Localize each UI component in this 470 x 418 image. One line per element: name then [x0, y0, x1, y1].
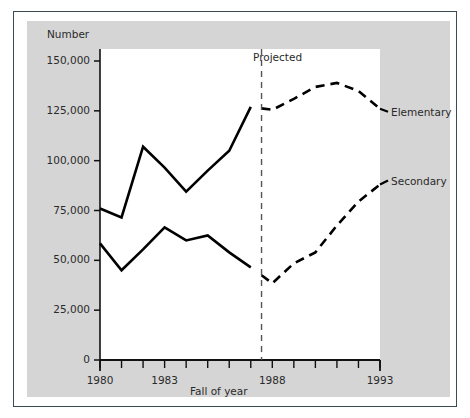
y-tick-label-3: 75,000 — [28, 204, 90, 216]
chart-figure: Number Projected Fall of year 025,00050,… — [0, 0, 470, 418]
series-label-elementary: Elementary — [391, 106, 451, 118]
series-label-secondary: Secondary — [391, 175, 447, 187]
leader-line-secondary — [380, 181, 388, 185]
series-line-projected-secondary — [262, 185, 380, 284]
projected-annotation-label: Projected — [253, 51, 302, 63]
series-line-actual-secondary — [100, 227, 251, 270]
y-tick-label-4: 100,000 — [28, 154, 90, 166]
series-line-projected-elementary — [262, 83, 380, 110]
series-line-actual-elementary — [100, 107, 251, 218]
x-tick-label-1988: 1988 — [247, 374, 297, 386]
y-axis-title: Number — [47, 28, 89, 40]
y-tick-label-6: 150,000 — [28, 54, 90, 66]
x-axis-title: Fall of year — [190, 385, 248, 397]
x-tick-label-1983: 1983 — [140, 374, 190, 386]
y-tick-label-5: 125,000 — [28, 104, 90, 116]
series-label-leaders — [380, 109, 388, 185]
x-tick-label-1993: 1993 — [355, 374, 405, 386]
series-group — [100, 83, 380, 283]
y-tick-label-2: 50,000 — [28, 253, 90, 265]
leader-line-elementary — [380, 109, 388, 112]
x-tick-label-1980: 1980 — [75, 374, 125, 386]
axes-group — [94, 49, 380, 371]
y-tick-label-1: 25,000 — [28, 303, 90, 315]
y-tick-label-0: 0 — [28, 353, 90, 365]
